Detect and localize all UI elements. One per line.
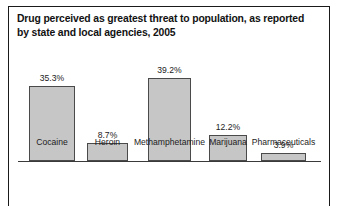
chart-title: Drug perceived as greatest threat to pop… (17, 12, 317, 39)
bar-value-label: 39.2% (157, 65, 181, 75)
plot-area: 35.3%Cocaine8.7%Heroin39.2%Methamphetami… (18, 62, 321, 194)
bar-value-label: 35.3% (40, 73, 64, 83)
bar[interactable] (29, 86, 75, 161)
x-axis-category-label: Heroin (95, 137, 120, 147)
bar[interactable] (148, 78, 191, 161)
x-axis-category-label: Methamphetamine (134, 137, 205, 147)
x-axis-category-label: Marijuana (209, 137, 247, 147)
x-axis-category-label: Pharmaceuticals (252, 137, 316, 147)
chart-figure: Drug perceived as greatest threat to pop… (0, 0, 339, 194)
x-axis-category-label: Cocaine (36, 137, 68, 147)
bar[interactable] (261, 153, 306, 161)
bar-value-label: 12.2% (216, 122, 240, 132)
chart-title-line-1: Drug perceived as greatest threat to pop… (17, 12, 317, 26)
chart-title-line-2: by state and local agencies, 2005 (17, 26, 317, 40)
